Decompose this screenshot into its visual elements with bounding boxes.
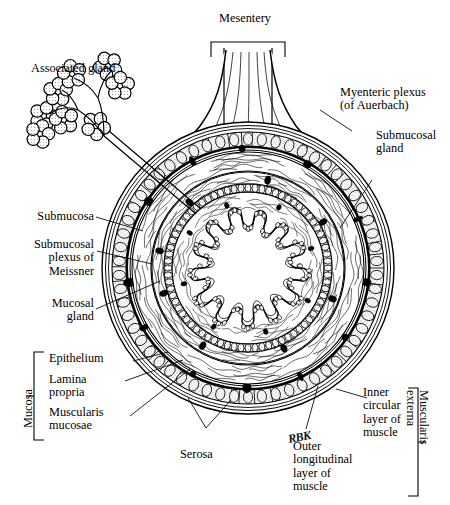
label-outer-longitudinal-muscle: Outer longitudinal layer of muscle xyxy=(293,440,352,494)
bracket-label-mucosa: Mucosa xyxy=(22,389,35,428)
label-myenteric-plexus: Myenteric plexus (of Auerbach) xyxy=(340,86,426,113)
label-muscularis-mucosae: Muscularis mucosae xyxy=(49,406,104,433)
label-epithelium: Epithelium xyxy=(49,352,104,365)
label-mucosal-gland: Mucosal gland xyxy=(0,297,94,324)
label-submucosa: Submucosa xyxy=(0,210,94,223)
bracket-label-muscularis-externa: Muscularis externa xyxy=(403,390,430,445)
label-lamina-propria: Lamina propria xyxy=(49,373,87,400)
label-mesentery: Mesentery xyxy=(219,12,271,25)
intestinal-wall xyxy=(27,42,394,429)
label-submucosal-plexus-meissner: Submucosal plexus of Meissner xyxy=(0,238,94,278)
label-inner-circular-muscle: Inner circular layer of muscle xyxy=(363,386,401,440)
label-submucosal-gland: Submucosal gland xyxy=(376,129,436,156)
label-serosa: Serosa xyxy=(180,448,213,461)
label-associated-gland: Associated gland xyxy=(31,62,115,75)
figure-canvas: Mesentery Associated gland Myenteric ple… xyxy=(0,0,450,505)
